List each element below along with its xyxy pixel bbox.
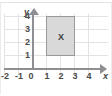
- y-axis-line: [32, 14, 34, 70]
- x-tick-label-2: 2: [54, 72, 68, 81]
- x-axis-line: [4, 68, 102, 70]
- coordinate-grid-figure: X -2 -1 0 1 2 3 4 1 2 3 4 x y: [0, 0, 112, 96]
- y-axis-arrow-icon: [29, 8, 39, 15]
- y-tick-label-3: 3: [18, 25, 30, 34]
- x-tick-label-3: 3: [68, 72, 82, 81]
- x-tick-label-4: 4: [82, 72, 96, 81]
- gridline-vertical-x-4: [88, 14, 89, 76]
- plot-area: X -2 -1 0 1 2 3 4 1 2 3 4 x y: [0, 8, 112, 96]
- shape-label: X: [53, 33, 69, 42]
- x-axis-label: x: [103, 72, 108, 81]
- y-tick-label-2: 2: [18, 38, 30, 47]
- x-tick-label-0: 0: [24, 72, 38, 81]
- y-tick-label-1: 1: [18, 51, 30, 60]
- gridline-vertical-x-minus2: [4, 14, 5, 76]
- y-axis-label: y: [24, 8, 29, 17]
- x-tick-label-1: 1: [40, 72, 54, 81]
- x-tick-label-minus2: -2: [0, 72, 12, 81]
